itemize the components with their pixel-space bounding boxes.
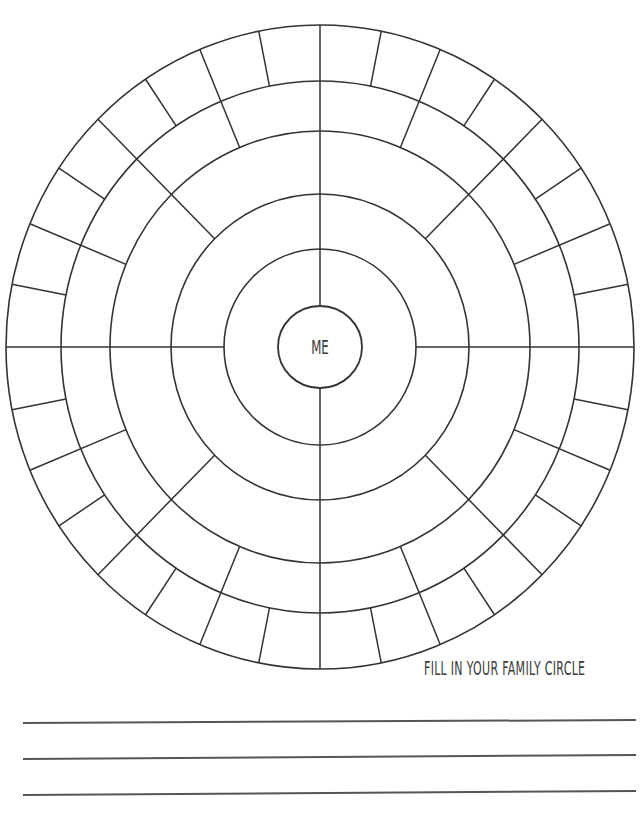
divider-3x-great-grandparents — [146, 568, 177, 615]
divider-3x-great-grandparents — [59, 168, 105, 199]
divider-2x-great-grandparents — [400, 50, 440, 148]
divider-great-grandparents — [98, 455, 215, 575]
divider-3x-great-grandparents — [464, 568, 495, 615]
divider-3x-great-grandparents — [464, 79, 495, 126]
divider-3x-great-grandparents — [535, 495, 581, 526]
divider-great-grandparents — [98, 119, 215, 239]
divider-2x-great-grandparents — [514, 224, 610, 265]
center-me-label: ME — [308, 336, 333, 358]
divider-2x-great-grandparents — [514, 430, 610, 471]
family-circle-chart — [0, 0, 642, 824]
divider-2x-great-grandparents — [200, 50, 240, 148]
divider-3x-great-grandparents — [574, 284, 628, 295]
divider-2x-great-grandparents — [200, 547, 240, 645]
writing-line-1 — [23, 720, 636, 723]
divider-3x-great-grandparents — [146, 79, 177, 126]
writing-line-2 — [23, 755, 636, 759]
divider-great-grandparents — [425, 119, 542, 239]
writing-line-3 — [23, 791, 636, 795]
writing-lines — [23, 720, 636, 795]
divider-great-grandparents — [425, 455, 542, 575]
divider-3x-great-grandparents — [12, 284, 66, 295]
divider-3x-great-grandparents — [371, 31, 382, 86]
divider-3x-great-grandparents — [535, 168, 581, 199]
divider-2x-great-grandparents — [30, 224, 126, 265]
divider-2x-great-grandparents — [30, 430, 126, 471]
divider-3x-great-grandparents — [59, 495, 105, 526]
divider-3x-great-grandparents — [371, 608, 382, 663]
divider-3x-great-grandparents — [259, 608, 270, 663]
divider-3x-great-grandparents — [259, 31, 270, 86]
divider-2x-great-grandparents — [400, 547, 440, 645]
divider-3x-great-grandparents — [574, 399, 628, 410]
divider-3x-great-grandparents — [12, 399, 66, 410]
fill-in-caption: FILL IN YOUR FAMILY CIRCLE — [424, 656, 585, 680]
